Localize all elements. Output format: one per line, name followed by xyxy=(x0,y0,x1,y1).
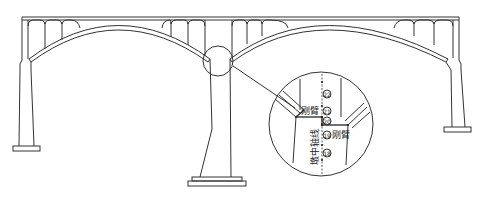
svg-text:18: 18 xyxy=(323,150,331,157)
svg-text:21: 21 xyxy=(323,108,331,115)
segment-22: 22 xyxy=(323,90,331,98)
detail-marker-circle xyxy=(203,46,233,76)
pier-axis-label: 墩中轴线 xyxy=(309,129,320,165)
bridge-diagram: 22 21 20 19 18 刚臂 刚臂 墩中轴线 xyxy=(0,0,482,201)
svg-text:20: 20 xyxy=(323,118,331,125)
segment-21: 21 xyxy=(323,107,331,115)
segment-20: 20 xyxy=(323,117,331,125)
svg-text:19: 19 xyxy=(323,132,331,139)
right-arch xyxy=(230,26,448,63)
callout-leader-line xyxy=(233,66,295,108)
segment-18: 18 xyxy=(323,149,331,157)
rigid-arm-label-left: 刚臂 xyxy=(301,105,319,116)
rigid-arm-label-right: 刚臂 xyxy=(332,129,350,140)
magnified-callout: 22 21 20 19 18 刚臂 刚臂 墩中轴线 xyxy=(269,72,373,176)
left-pier xyxy=(13,60,40,151)
bridge-deck xyxy=(22,17,459,60)
left-arch xyxy=(29,26,210,63)
right-pier xyxy=(444,60,471,132)
svg-text:22: 22 xyxy=(323,91,331,98)
central-pier xyxy=(188,59,246,186)
segment-19: 19 xyxy=(323,131,331,139)
